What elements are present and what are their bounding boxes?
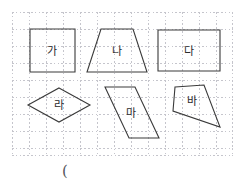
shape-label-ba: 바 <box>187 96 197 107</box>
shape-label-na: 나 <box>112 46 122 57</box>
shape-label-ra: 라 <box>54 100 64 111</box>
shape-figures <box>0 0 241 188</box>
shape-label-da: 다 <box>184 46 194 57</box>
worksheet-page: 가 나 다 라 마 바 ( <box>0 0 241 188</box>
shape-label-ga: 가 <box>47 46 57 57</box>
shape-label-ma: 마 <box>126 108 136 119</box>
answer-parenthesis: ( <box>62 162 68 180</box>
